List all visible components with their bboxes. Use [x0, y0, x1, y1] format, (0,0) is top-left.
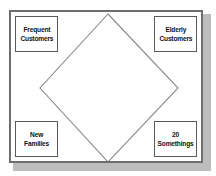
- corner-box-frequent-customers[interactable]: Frequent Customers: [15, 16, 58, 52]
- diagram-canvas: Frequent Customers Elderly Customers New…: [0, 0, 216, 176]
- plot-area: Frequent Customers Elderly Customers New…: [11, 12, 201, 161]
- corner-box-new-families[interactable]: New Families: [15, 121, 58, 157]
- corner-label-new-families: New Families: [24, 130, 49, 149]
- corner-label-frequent-customers: Frequent Customers: [20, 25, 53, 44]
- corner-box-20-somethings[interactable]: 20 Somethings: [154, 121, 197, 157]
- diagram-frame: Frequent Customers Elderly Customers New…: [9, 10, 203, 163]
- corner-box-elderly-customers[interactable]: Elderly Customers: [154, 16, 197, 52]
- corner-label-20-somethings: 20 Somethings: [157, 130, 193, 149]
- corner-label-elderly-customers: Elderly Customers: [159, 25, 192, 44]
